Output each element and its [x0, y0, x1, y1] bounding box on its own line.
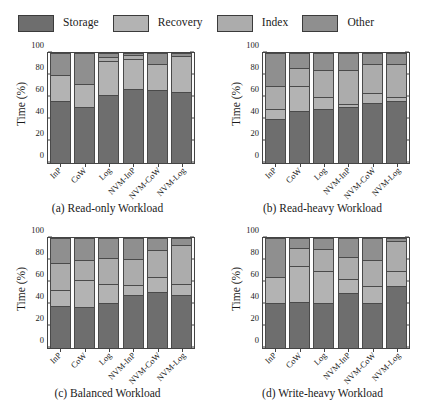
x-tick-mark: [300, 348, 301, 352]
y-axis-label: Time (%): [230, 244, 242, 334]
bars-container: [48, 53, 194, 163]
bar-segment-recovery: [289, 86, 310, 111]
y-tick-label: 20: [36, 313, 49, 322]
bar-segment-other: [313, 238, 334, 249]
stacked-bar: [289, 53, 310, 163]
axes-frame: 020406080100: [47, 237, 195, 349]
bar-segment-storage: [147, 90, 168, 163]
x-tick-mark: [158, 348, 159, 352]
bar-segment-storage: [147, 292, 168, 348]
legend-entry-storage: Storage: [18, 15, 99, 32]
y-tick-label: 40: [251, 106, 264, 115]
stacked-bar: [265, 238, 286, 348]
bar-segment-recovery: [98, 61, 119, 95]
bar-segment-other: [386, 238, 407, 241]
bar-segment-recovery: [386, 97, 407, 101]
bar-segment-index: [313, 249, 334, 271]
stacked-bar: [171, 53, 192, 163]
bar-segment-recovery: [362, 286, 383, 303]
bar-segment-storage: [171, 92, 192, 164]
bar-segment-recovery: [123, 285, 144, 295]
stacked-bar: [147, 53, 168, 163]
stacked-bar: [171, 238, 192, 348]
bar-segment-index: [289, 68, 310, 86]
bar-segment-recovery: [338, 279, 359, 293]
x-tick-mark: [60, 348, 61, 352]
bar-segment-index: [386, 241, 407, 271]
bar-segment-other: [289, 53, 310, 68]
x-tick-mark: [109, 348, 110, 352]
bar-segment-other: [147, 53, 168, 64]
x-tick-label: CoW: [69, 166, 88, 185]
axes-frame: 020406080100: [47, 52, 195, 164]
legend-label: Recovery: [158, 17, 203, 29]
bar-segment-other: [123, 238, 144, 259]
stacked-bar: [50, 53, 71, 163]
x-tick-mark: [397, 348, 398, 352]
bar-segment-other: [362, 53, 383, 64]
stacked-bar: [313, 53, 334, 163]
bar-segment-recovery: [123, 59, 144, 90]
legend-entry-index: Index: [217, 15, 289, 32]
x-tick-label: InP: [264, 351, 278, 365]
y-tick-label: 60: [36, 84, 49, 93]
chart-legend: StorageRecoveryIndexOther: [0, 6, 430, 40]
bar-segment-storage: [98, 95, 119, 163]
bar-segment-other: [265, 238, 286, 277]
bar-segment-index: [98, 57, 119, 60]
bar-segment-recovery: [362, 93, 383, 103]
bar-segment-index: [265, 86, 286, 109]
y-tick-label: 40: [36, 291, 49, 300]
bar-segment-other: [338, 53, 359, 70]
bar-segment-storage: [338, 293, 359, 348]
plot-area: Time (%)InPCoWLogNVM-InPNVM-CoWNVM-Log02…: [0, 42, 215, 202]
x-tick-label: Log: [312, 351, 328, 367]
y-tick-label: 20: [36, 128, 49, 137]
bar-segment-index: [386, 64, 407, 97]
subplot-write-heavy: Time (%)InPCoWLogNVM-InPNVM-CoWNVM-Log02…: [215, 227, 430, 417]
stacked-bar: [265, 53, 286, 163]
legend-label: Other: [347, 17, 374, 29]
y-tick-label: 80: [36, 247, 49, 256]
bars-container: [263, 238, 409, 348]
x-tick-label: Log: [97, 166, 113, 182]
x-tick-mark: [85, 348, 86, 352]
x-tick-label: InP: [49, 166, 63, 180]
bar-segment-storage: [98, 303, 119, 348]
subplot-caption: (c) Balanced Workload: [0, 387, 215, 399]
stacked-bar: [50, 238, 71, 348]
subplot-read-heavy: Time (%)InPCoWLogNVM-InPNVM-CoWNVM-Log02…: [215, 42, 430, 232]
x-tick-label: CoW: [69, 351, 88, 370]
stacked-bar: [98, 238, 119, 348]
bar-segment-index: [50, 263, 71, 289]
bar-segment-recovery: [171, 284, 192, 295]
bar-segment-recovery: [313, 271, 334, 303]
stacked-bar: [74, 53, 95, 163]
y-tick-label: 60: [251, 269, 264, 278]
y-tick-label: 0: [255, 150, 263, 159]
bars-container: [263, 53, 409, 163]
bar-segment-storage: [265, 303, 286, 348]
y-tick-label: 0: [40, 150, 48, 159]
bar-segment-other: [123, 53, 144, 55]
bar-segment-recovery: [289, 266, 310, 302]
bar-segment-index: [362, 260, 383, 286]
stacked-bar: [98, 53, 119, 163]
subplot-balanced: Time (%)InPCoWLogNVM-InPNVM-CoWNVM-Log02…: [0, 227, 215, 417]
x-tick-mark: [60, 163, 61, 167]
bar-segment-other: [74, 238, 95, 260]
bar-segment-recovery: [50, 75, 71, 101]
bar-segment-storage: [386, 286, 407, 348]
bar-segment-other: [338, 238, 359, 257]
bar-segment-storage: [338, 107, 359, 163]
x-tick-mark: [373, 348, 374, 352]
stacked-bar: [362, 238, 383, 348]
bar-segment-storage: [123, 295, 144, 348]
legend-swatch-storage: [18, 15, 54, 32]
y-tick-label: 60: [36, 269, 49, 278]
stacked-bar: [386, 238, 407, 348]
bar-segment-other: [386, 53, 407, 64]
bar-segment-storage: [289, 302, 310, 348]
bar-segment-index: [338, 257, 359, 279]
x-tick-mark: [348, 163, 349, 167]
